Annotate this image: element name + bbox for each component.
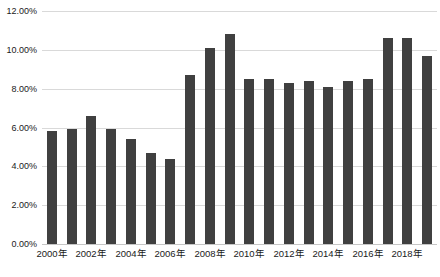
x-axis-tick-label: 2018年 [382, 249, 432, 259]
bar-2018年 [402, 38, 412, 244]
bar-2007年 [185, 75, 195, 244]
bar-2003年 [106, 129, 116, 244]
bar-2013年 [304, 81, 314, 244]
bar-2017年 [383, 38, 393, 244]
bar-2004年 [126, 139, 136, 244]
gridline [42, 205, 437, 206]
y-axis-tick-label: 0.00% [0, 240, 37, 249]
y-axis-tick-label: 8.00% [0, 85, 37, 94]
y-axis-tick-label: 2.00% [0, 201, 37, 210]
bar-2005年 [146, 153, 156, 244]
bar-2014年 [323, 87, 333, 244]
gridline [42, 89, 437, 90]
bar-2019年 [422, 56, 432, 244]
bar-2008年 [205, 48, 215, 244]
y-axis-tick-label: 4.00% [0, 162, 37, 171]
bar-2010年 [244, 79, 254, 244]
gridline [42, 128, 437, 129]
bar-2002年 [86, 116, 96, 244]
bar-2012年 [284, 83, 294, 244]
gridline [42, 11, 437, 12]
bar-2016年 [363, 79, 373, 244]
y-axis-tick-label: 10.00% [0, 46, 37, 55]
gridline [42, 166, 437, 167]
bar-chart: 0.00%2.00%4.00%6.00%8.00%10.00%12.00% 20… [0, 0, 440, 277]
y-axis-tick-label: 6.00% [0, 124, 37, 133]
gridline [42, 50, 437, 51]
bar-2015年 [343, 81, 353, 244]
bar-2001年 [67, 129, 77, 244]
bar-2000年 [47, 131, 57, 244]
y-axis-tick-label: 12.00% [0, 7, 37, 16]
bar-2006年 [165, 159, 175, 244]
bar-2009年 [225, 34, 235, 244]
bar-2011年 [264, 79, 274, 244]
x-axis-line [42, 244, 437, 245]
